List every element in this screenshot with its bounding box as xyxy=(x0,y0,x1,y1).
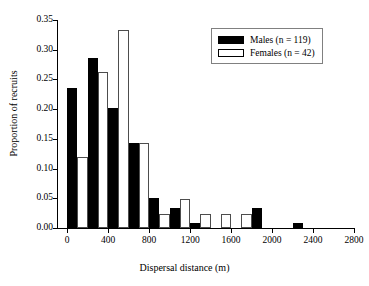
x-axis-title: Dispersal distance (m) xyxy=(0,262,369,273)
females-swatch-icon xyxy=(218,49,244,57)
x-tick-mark xyxy=(149,229,150,233)
x-tick-mark xyxy=(354,229,355,233)
bar-males-600 xyxy=(129,143,139,228)
chart-legend: Males (n = 119) Females (n = 42) xyxy=(211,28,323,64)
x-tick-label: 2000 xyxy=(252,236,292,246)
bar-males-1800 xyxy=(252,208,262,228)
bar-females-1000 xyxy=(180,199,190,228)
bar-females-400 xyxy=(118,30,128,228)
bar-males-0 xyxy=(67,88,77,228)
y-tick-label: 0.35 xyxy=(13,15,53,25)
x-tick-label: 2800 xyxy=(334,236,369,246)
x-tick-label: 2400 xyxy=(293,236,333,246)
x-tick-label: 400 xyxy=(88,236,128,246)
y-tick-label: 0.05 xyxy=(13,193,53,203)
x-tick-mark xyxy=(272,229,273,233)
y-tick-label: 0.20 xyxy=(13,104,53,114)
bar-females-800 xyxy=(159,214,169,228)
x-tick-mark xyxy=(67,229,68,233)
legend-item-females: Females (n = 42) xyxy=(218,46,315,59)
x-tick-mark xyxy=(231,229,232,233)
bar-males-2200 xyxy=(293,223,303,228)
bar-females-1600 xyxy=(241,214,251,228)
x-tick-label: 1600 xyxy=(211,236,251,246)
legend-label-males: Males (n = 119) xyxy=(250,35,311,45)
bar-males-1200 xyxy=(190,223,200,228)
males-swatch-icon xyxy=(218,36,244,44)
y-tick-mark xyxy=(53,228,57,229)
bar-females-1400 xyxy=(221,214,231,228)
bar-males-800 xyxy=(149,198,159,228)
legend-label-females: Females (n = 42) xyxy=(250,48,315,58)
bar-males-200 xyxy=(88,58,98,228)
x-tick-mark xyxy=(190,229,191,233)
x-tick-label: 800 xyxy=(129,236,169,246)
y-tick-label: 0.10 xyxy=(13,164,53,174)
x-tick-mark xyxy=(108,229,109,233)
bar-males-1000 xyxy=(170,208,180,228)
y-tick-label: 0.00 xyxy=(13,223,53,233)
x-axis-line xyxy=(57,228,355,229)
y-tick-label: 0.30 xyxy=(13,45,53,55)
x-tick-label: 1200 xyxy=(170,236,210,246)
bar-females-200 xyxy=(98,72,108,228)
x-tick-label: 0 xyxy=(47,236,87,246)
dispersal-distance-histogram: Proportion of recruits 0.000.050.100.150… xyxy=(0,0,369,286)
y-tick-label: 0.15 xyxy=(13,134,53,144)
bar-females-600 xyxy=(139,143,149,228)
bar-females-0 xyxy=(77,157,87,228)
y-tick-label: 0.25 xyxy=(13,74,53,84)
bar-females-1200 xyxy=(200,214,210,228)
x-tick-mark xyxy=(313,229,314,233)
bar-males-400 xyxy=(108,108,118,228)
legend-item-males: Males (n = 119) xyxy=(218,33,315,46)
